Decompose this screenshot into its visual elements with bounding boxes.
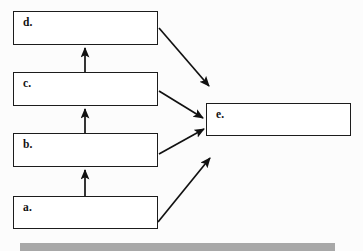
arrow-b-to-e: [159, 129, 204, 154]
node-box-b[interactable]: b.: [13, 133, 158, 167]
node-label-d: d.: [23, 16, 33, 30]
arrow-a-to-e: [158, 158, 210, 222]
arrow-d-to-e: [159, 28, 209, 86]
flowchart-diagram: d. c. b. a. e.: [0, 0, 363, 251]
footer-bar: [20, 243, 335, 251]
arrow-c-to-e: [159, 91, 203, 118]
node-box-d[interactable]: d.: [13, 11, 158, 45]
node-box-c[interactable]: c.: [13, 72, 158, 106]
node-label-c: c.: [23, 77, 31, 91]
node-label-b: b.: [23, 138, 33, 152]
node-label-a: a.: [23, 201, 32, 215]
node-box-e[interactable]: e.: [206, 103, 351, 136]
node-box-a[interactable]: a.: [13, 196, 158, 229]
node-label-e: e.: [216, 108, 224, 122]
